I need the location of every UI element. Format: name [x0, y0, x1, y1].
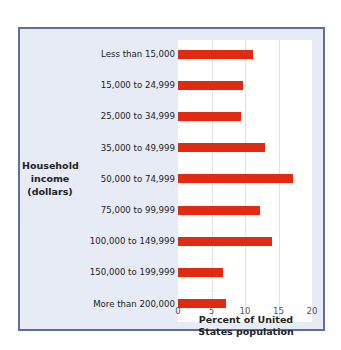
bar [178, 174, 293, 183]
category-label: 25,000 to 34,999 [101, 111, 175, 121]
x-axis-title-line: Percent of United [196, 314, 296, 326]
bar [178, 206, 260, 215]
y-axis-title-line: Household [22, 159, 78, 172]
category-label: Less than 15,000 [101, 49, 175, 59]
x-axis-title-line: States population [196, 326, 296, 338]
bar [178, 81, 243, 90]
x-axis-title: Percent of United States population [196, 314, 296, 338]
category-label: 100,000 to 149,999 [90, 236, 175, 246]
category-label: 75,000 to 99,999 [101, 205, 175, 215]
bar [178, 112, 241, 121]
y-axis-title-line: (dollars) [22, 185, 78, 198]
bar [178, 237, 272, 246]
category-label: More than 200,000 [93, 299, 175, 309]
bar [178, 50, 253, 59]
category-label: 15,000 to 24,999 [101, 80, 175, 90]
bar [178, 143, 265, 152]
category-label: 50,000 to 74,999 [101, 174, 175, 184]
category-label: 35,000 to 49,999 [101, 143, 175, 153]
category-label: 150,000 to 199,999 [90, 267, 175, 277]
x-tick-label: 20 [302, 306, 322, 316]
bar [178, 268, 223, 277]
x-tick-label: 0 [168, 306, 188, 316]
y-axis-title-line: income [22, 172, 78, 185]
y-axis-title: Household income (dollars) [22, 159, 78, 198]
